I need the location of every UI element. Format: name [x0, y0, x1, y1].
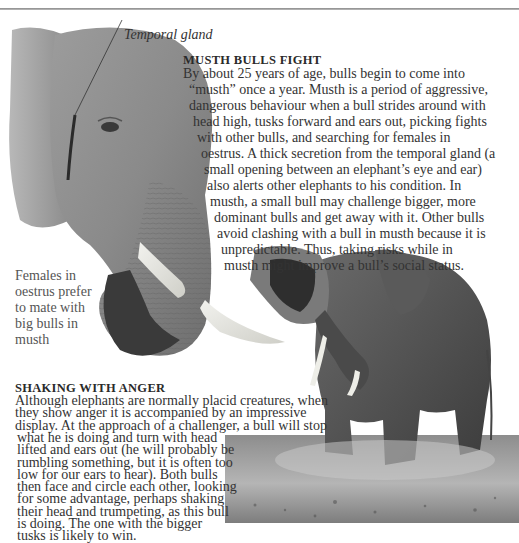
musth-line: oestrus. A thick secretion from the temp…: [201, 146, 495, 162]
top-rule: [0, 8, 519, 10]
musth-line: head high, tusks forward and ears out, p…: [193, 114, 487, 130]
musth-line: small opening between an elephant’s eye …: [204, 162, 482, 178]
females-caption-line: Females in: [15, 268, 76, 284]
females-caption-line: musth: [15, 332, 49, 348]
temporal-gland-label: Temporal gland: [124, 27, 213, 43]
anger-line: tusks is likely to win.: [17, 529, 136, 542]
musth-line: with other bulls, and searching for fema…: [197, 130, 450, 146]
musth-line: also alerts other elephants to his condi…: [207, 178, 461, 194]
females-caption-line: oestrus prefer: [15, 284, 92, 300]
females-caption-line: to mate with: [15, 300, 85, 316]
musth-line: unpredictable. Thus, taking risks while …: [221, 242, 453, 258]
musth-line: avoid clashing with a bull in musth beca…: [217, 226, 486, 242]
musth-line: By about 25 years of age, bulls begin to…: [183, 66, 465, 82]
musth-line: “musth” once a year. Musth is a period o…: [189, 82, 488, 98]
musth-line: musth might improve a bull’s social stat…: [224, 258, 464, 274]
musth-line: dominant bulls and get away with it. Oth…: [214, 210, 484, 226]
musth-line: dangerous behaviour when a bull strides …: [189, 98, 486, 114]
females-caption-line: big bulls in: [15, 316, 78, 332]
charging-elephant-photo: [225, 240, 519, 525]
musth-line: musth, a small bull may challenge bigger…: [210, 194, 476, 210]
